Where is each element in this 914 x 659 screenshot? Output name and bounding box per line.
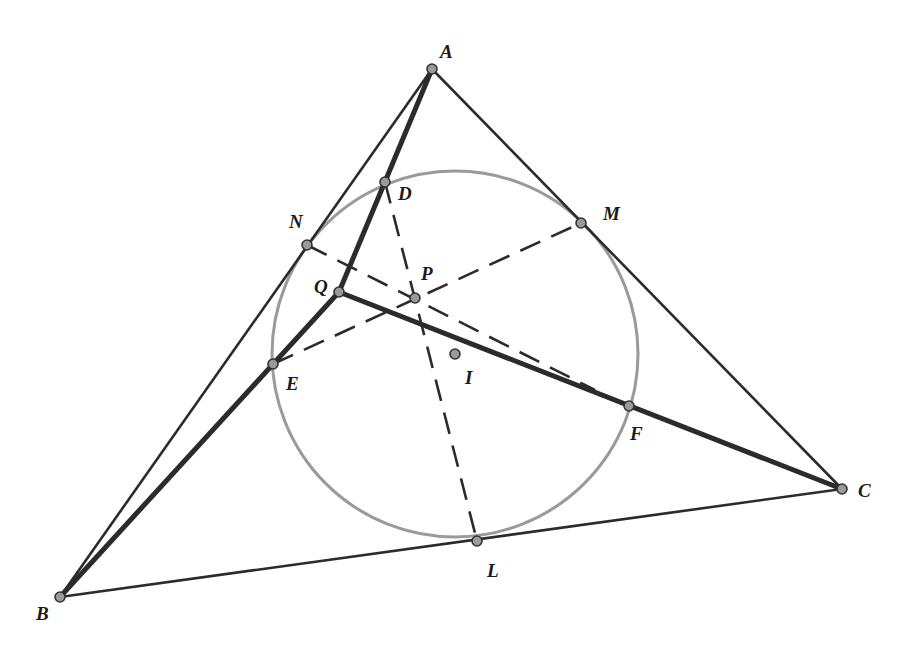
geometry-figure: A B C D E F L M N P Q I bbox=[0, 0, 914, 659]
label-q: Q bbox=[314, 276, 328, 297]
point-c bbox=[837, 484, 847, 494]
label-b: B bbox=[35, 603, 49, 624]
point-i bbox=[450, 349, 460, 359]
point-e bbox=[268, 359, 278, 369]
label-n: N bbox=[288, 211, 304, 232]
label-e: E bbox=[285, 373, 299, 394]
point-q bbox=[334, 287, 344, 297]
label-d: D bbox=[397, 183, 412, 204]
segment-qc bbox=[339, 292, 842, 489]
dashed-dl bbox=[385, 182, 477, 541]
point-l bbox=[472, 536, 482, 546]
point-m bbox=[576, 218, 586, 228]
label-m: M bbox=[602, 203, 621, 224]
side-bc bbox=[60, 489, 842, 597]
label-f: F bbox=[629, 423, 643, 444]
label-l: L bbox=[486, 560, 499, 581]
label-c: C bbox=[858, 480, 871, 501]
point-d bbox=[380, 177, 390, 187]
point-f bbox=[624, 401, 634, 411]
label-i: I bbox=[464, 367, 473, 388]
point-n bbox=[302, 240, 312, 250]
point-b bbox=[55, 592, 65, 602]
point-p bbox=[410, 293, 420, 303]
point-a bbox=[427, 64, 437, 74]
label-p: P bbox=[420, 263, 433, 284]
dashed-nf bbox=[307, 245, 595, 390]
label-a: A bbox=[439, 41, 453, 62]
